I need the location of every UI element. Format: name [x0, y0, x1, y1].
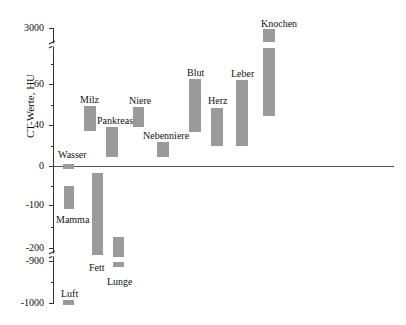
- zero-line: [53, 166, 394, 167]
- bar-fett: [92, 173, 103, 255]
- tick-label-40: 40: [14, 119, 44, 130]
- bar-lunge-upper: [113, 237, 124, 257]
- tick-label-3000: 3000: [14, 22, 44, 33]
- tick-label-minus-900: -900: [14, 255, 44, 266]
- tick-minus-200: [49, 248, 54, 249]
- tick-minus-100: [49, 205, 54, 206]
- label-fett: Fett: [89, 262, 105, 273]
- minor-tick: [51, 282, 54, 283]
- tick-40: [49, 125, 54, 126]
- bar-luft: [63, 300, 74, 305]
- label-nebenniere: Nebenniere: [143, 130, 189, 141]
- tick-3000: [49, 28, 54, 29]
- label-luft: Luft: [61, 288, 78, 299]
- label-milz: Milz: [80, 94, 99, 105]
- minor-tick: [51, 105, 54, 106]
- label-herz: Herz: [208, 95, 227, 106]
- bar-lunge-lower: [113, 262, 124, 267]
- axis-break-icon: [48, 250, 60, 260]
- bar-milz: [84, 106, 96, 131]
- label-wasser: Wasser: [58, 149, 87, 160]
- minor-tick: [51, 186, 54, 187]
- minor-tick: [51, 227, 54, 228]
- minor-tick: [51, 146, 54, 147]
- bar-nebenniere: [157, 142, 169, 157]
- bar-knochen-upper: [263, 29, 275, 42]
- label-pankreas: Pankreas: [97, 115, 133, 126]
- label-leber: Leber: [231, 68, 254, 79]
- tick-label-0: 0: [14, 160, 44, 171]
- label-knochen: Knochen: [261, 18, 297, 29]
- label-blut: Blut: [187, 67, 204, 78]
- label-mamma: Mamma: [56, 214, 89, 225]
- bar-niere: [133, 107, 144, 127]
- axis-break-icon: [48, 40, 60, 50]
- bar-wasser: [63, 164, 74, 169]
- tick-minus-1000: [49, 303, 54, 304]
- label-niere: Niere: [129, 95, 151, 106]
- bar-herz: [211, 108, 223, 146]
- bar-mamma: [64, 186, 74, 209]
- tick-label-minus-100: -100: [14, 199, 44, 210]
- label-lunge: Lunge: [107, 276, 133, 287]
- tick-minus-900: [49, 261, 54, 262]
- bar-knochen-lower: [263, 48, 275, 116]
- bar-blut: [189, 79, 201, 132]
- tick-60: [49, 84, 54, 85]
- tick-label-minus-1000: -1000: [14, 297, 44, 308]
- minor-tick: [51, 64, 54, 65]
- bar-pankreas: [106, 127, 118, 157]
- tick-label-60: 60: [14, 78, 44, 89]
- tick-label-minus-200: -200: [14, 242, 44, 253]
- bar-leber: [236, 80, 248, 146]
